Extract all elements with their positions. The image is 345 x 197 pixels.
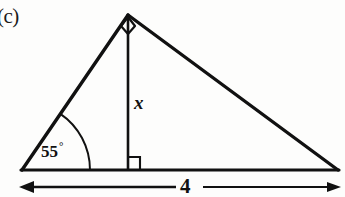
triangle-left-side: [22, 15, 128, 170]
dimension-arrowhead-right: [327, 182, 341, 192]
angle-label: 55°: [41, 140, 63, 162]
geometry-figure: (c) 55° x 4: [0, 0, 345, 197]
angle-value: 55: [41, 142, 58, 161]
part-label: (c): [0, 4, 19, 29]
base-length-label: 4: [180, 174, 191, 197]
dimension-arrowhead-left: [19, 181, 34, 193]
angle-arc: [60, 114, 90, 170]
altitude-label: x: [134, 92, 144, 114]
base-right-angle-marker: [128, 157, 140, 170]
degree-symbol: °: [59, 140, 63, 152]
triangle-right-side: [128, 15, 338, 170]
triangle-outline: [21, 15, 339, 170]
figure-drawing-canvas: [0, 0, 345, 197]
